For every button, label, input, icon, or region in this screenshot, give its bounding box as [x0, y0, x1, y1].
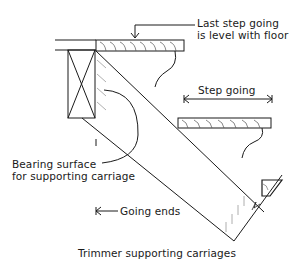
label-going-ends: Going ends — [120, 205, 180, 217]
last-step-leader — [135, 25, 195, 38]
carriage-top-line — [96, 51, 264, 212]
label-bearing-line1: Bearing surface — [12, 158, 96, 170]
top-nosing-curve — [155, 51, 176, 87]
step-tread — [178, 118, 271, 128]
bearing-surface-arc — [102, 90, 138, 163]
label-last-step-line2: is level with floor — [197, 29, 288, 41]
step-tread-hatch — [182, 120, 260, 128]
caption: Trimmer supporting carriages — [78, 247, 236, 259]
label-bearing-line2: for supporting carriage — [12, 170, 135, 182]
top-tread — [96, 40, 184, 51]
top-tread-hatch — [100, 42, 176, 51]
label-last-step-line1: Last step going — [197, 17, 279, 29]
step-nosing-curve — [242, 128, 263, 158]
going-end-line — [234, 175, 282, 241]
label-step-going: Step going — [198, 84, 256, 96]
break-mark — [252, 202, 260, 210]
